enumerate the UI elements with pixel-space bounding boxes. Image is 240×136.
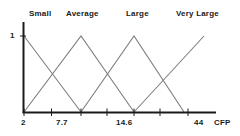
curve-average [24,36,134,112]
fuzzy-membership-chart: Small Average Large Very Large 2 7.7 14.… [0,0,240,136]
chart-axes [23,22,217,113]
x-axis-tick-label-2: 2 [21,118,26,127]
curve-very-large [134,36,204,112]
y-axis-tick-label-1: 1 [10,31,15,40]
x-axis-tick-label-14-6: 14.6 [116,118,132,127]
series-label-large: Large [126,9,149,18]
x-axis-tick-label-7-7: 7.7 [56,118,68,127]
series-label-small: Small [29,9,51,18]
chart-plot-area [0,0,240,136]
series-label-average: Average [66,9,99,18]
series-label-very-large: Very Large [176,9,219,18]
x-axis-unit-label: CFP [214,118,231,127]
membership-curves [24,36,204,112]
x-axis-tick-label-44: 44 [194,118,203,127]
